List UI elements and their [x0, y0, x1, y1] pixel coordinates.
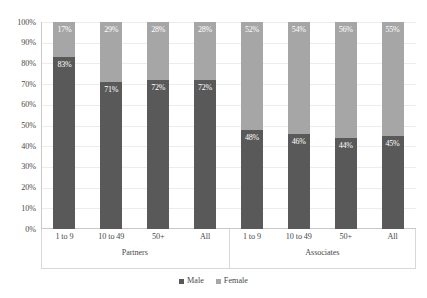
y-axis-tick-label: 20% [2, 183, 36, 192]
legend-label: Male [187, 276, 204, 286]
chart-legend: MaleFemale [0, 276, 427, 286]
x-axis: 1 to 910 to 4950+All1 to 910 to 4950+All… [41, 229, 416, 269]
bar-value-label-female: 54% [288, 25, 310, 34]
bar-segment-female[interactable]: 28% [147, 22, 169, 80]
y-axis-tick-label: 60% [2, 100, 36, 109]
y-axis-tick-label: 0% [2, 225, 36, 234]
bar-segment-female[interactable]: 54% [288, 22, 310, 134]
bar-value-label-male: 83% [53, 60, 75, 69]
y-axis-tick-label: 80% [2, 59, 36, 68]
bar-column[interactable]: 28%72% [194, 22, 216, 229]
bar-segment-female[interactable]: 28% [194, 22, 216, 80]
bar-column[interactable]: 17%83% [53, 22, 75, 229]
bar-segment-male[interactable]: 83% [53, 57, 75, 229]
bar-value-label-female: 28% [147, 25, 169, 34]
bar-column[interactable]: 55%45% [382, 22, 404, 229]
x-axis-category-label: 10 to 49 [275, 232, 322, 242]
bar-value-label-male: 46% [288, 137, 310, 146]
bar-segment-female[interactable]: 55% [382, 22, 404, 136]
bar-value-label-male: 71% [100, 85, 122, 94]
x-axis-group-label: Associates [229, 248, 417, 258]
bar-segment-male[interactable]: 46% [288, 134, 310, 229]
y-axis-tick-label: 100% [2, 18, 36, 27]
x-axis-group-separator [229, 229, 230, 268]
bar-column[interactable]: 56%44% [335, 22, 357, 229]
y-axis-tick-label: 10% [2, 204, 36, 213]
bar-segment-male[interactable]: 71% [100, 82, 122, 229]
legend-swatch-icon [216, 279, 221, 284]
bar-value-label-female: 29% [100, 25, 122, 34]
x-axis-group-label: Partners [41, 248, 229, 258]
bar-column[interactable]: 52%48% [241, 22, 263, 229]
y-axis-tick-label: 50% [2, 121, 36, 130]
bar-segment-female[interactable]: 52% [241, 22, 263, 130]
x-axis-category-label: 10 to 49 [88, 232, 135, 242]
bar-column[interactable]: 28%72% [147, 22, 169, 229]
legend-swatch-icon [179, 279, 184, 284]
bar-value-label-male: 45% [382, 139, 404, 148]
bar-segment-female[interactable]: 29% [100, 22, 122, 82]
bar-value-label-male: 72% [194, 83, 216, 92]
y-axis-tick-label: 90% [2, 38, 36, 47]
x-axis-category-label: 1 to 9 [41, 232, 88, 242]
legend-item-female[interactable]: Female [216, 276, 248, 286]
bar-value-label-male: 44% [335, 141, 357, 150]
x-axis-category-label: 1 to 9 [229, 232, 276, 242]
bar-value-label-female: 17% [53, 25, 75, 34]
bar-value-label-female: 56% [335, 25, 357, 34]
bar-segment-male[interactable]: 72% [194, 80, 216, 229]
x-axis-category-label: All [369, 232, 416, 242]
bar-segment-male[interactable]: 48% [241, 130, 263, 229]
bar-segment-male[interactable]: 44% [335, 138, 357, 229]
x-axis-category-label: All [182, 232, 229, 242]
x-axis-group-separator [415, 229, 416, 268]
x-axis-category-label: 50+ [322, 232, 369, 242]
bar-value-label-female: 28% [194, 25, 216, 34]
x-axis-group-separator [41, 229, 42, 268]
y-axis-tick-label: 40% [2, 142, 36, 151]
legend-item-male[interactable]: Male [179, 276, 204, 286]
bar-value-label-female: 55% [382, 25, 404, 34]
bar-segment-male[interactable]: 45% [382, 136, 404, 229]
bar-segment-female[interactable]: 56% [335, 22, 357, 138]
legend-label: Female [224, 276, 248, 286]
bar-value-label-male: 72% [147, 83, 169, 92]
bar-column[interactable]: 29%71% [100, 22, 122, 229]
bars-layer: 17%83%29%71%28%72%28%72%52%48%54%46%56%4… [41, 22, 416, 229]
y-axis-tick-label: 70% [2, 80, 36, 89]
bar-column[interactable]: 54%46% [288, 22, 310, 229]
bar-value-label-male: 48% [241, 133, 263, 142]
bar-segment-female[interactable]: 17% [53, 22, 75, 57]
x-axis-category-label: 50+ [135, 232, 182, 242]
stacked-bar-chart: 0%10%20%30%40%50%60%70%80%90%100% 17%83%… [0, 0, 427, 298]
bar-segment-male[interactable]: 72% [147, 80, 169, 229]
y-axis-tick-label: 30% [2, 162, 36, 171]
bar-value-label-female: 52% [241, 25, 263, 34]
y-axis: 0%10%20%30%40%50%60%70%80%90%100% [0, 0, 41, 229]
